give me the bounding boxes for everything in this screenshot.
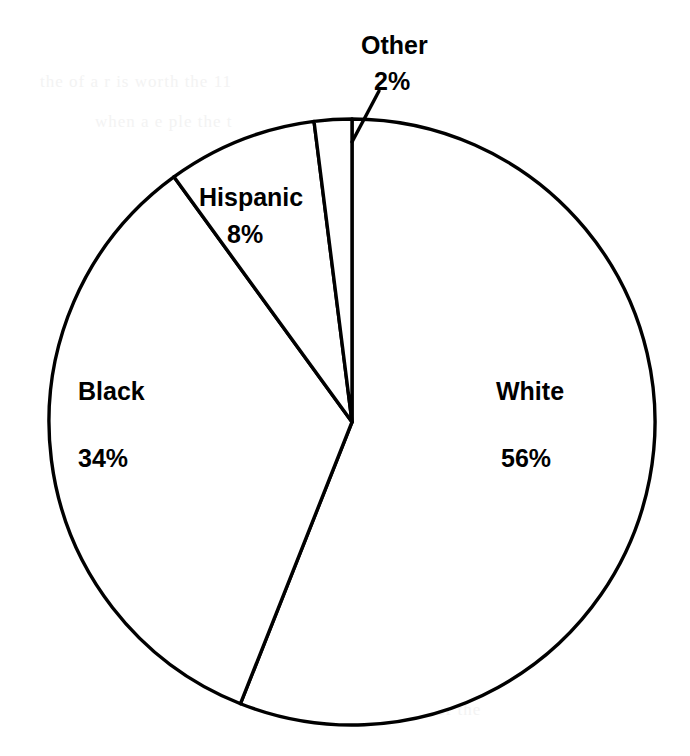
pie-chart-page: the of a r is worth the 11 when a e ple … [0,0,690,756]
slice-value-white: 56% [501,446,551,471]
slice-value-hispanic: 8% [227,222,263,247]
slice-label-white: White [496,379,564,404]
slice-label-black: Black [78,379,145,404]
slice-value-other: 2% [374,69,410,94]
slice-value-black: 34% [78,446,128,471]
slice-label-other: Other [361,33,428,58]
pie-slices [49,119,655,725]
slice-label-hispanic: Hispanic [199,185,303,210]
